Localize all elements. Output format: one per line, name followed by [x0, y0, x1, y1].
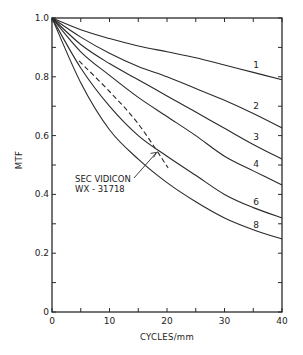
series-2: [52, 18, 282, 128]
mtf-chart: 01020304000.20.40.60.81.0 123468 CYCLES/…: [0, 0, 303, 355]
x-tick-label: 0: [49, 316, 55, 326]
plot-frame: [52, 18, 282, 312]
curves: [52, 18, 282, 239]
curve-label-4: 4: [253, 159, 259, 169]
y-tick-label: 0.2: [35, 248, 49, 258]
x-tick-label: 40: [276, 316, 288, 326]
curve-label-8: 8: [253, 220, 259, 230]
y-tick-label: 0: [43, 307, 49, 317]
curve-label-6: 6: [253, 197, 259, 207]
annotation-arrow-icon: [134, 152, 157, 178]
series-3: [52, 18, 282, 159]
x-tick-label: 10: [104, 316, 116, 326]
y-tick-label: 0.6: [35, 131, 50, 141]
x-tick-label: 30: [219, 316, 231, 326]
curve-label-3: 3: [253, 132, 259, 142]
series-8: [52, 18, 282, 239]
curve-label-2: 2: [253, 101, 259, 111]
curve-label-1: 1: [253, 60, 259, 70]
x-tick-label: 20: [161, 316, 173, 326]
y-tick-label: 0.8: [35, 72, 50, 82]
sec-vidicon-annotation: SEC VIDICON WX - 31718: [75, 152, 157, 194]
annotation-line-1: SEC VIDICON: [75, 174, 131, 184]
y-tick-label: 1.0: [35, 13, 50, 23]
y-axis-label: MTF: [14, 151, 24, 169]
series-sec-vidicon: [79, 61, 168, 168]
series-4: [52, 18, 282, 185]
y-tick-label: 0.4: [35, 189, 50, 199]
x-axis-label: CYCLES/mm: [140, 332, 194, 342]
annotation-line-2: WX - 31718: [75, 184, 125, 194]
